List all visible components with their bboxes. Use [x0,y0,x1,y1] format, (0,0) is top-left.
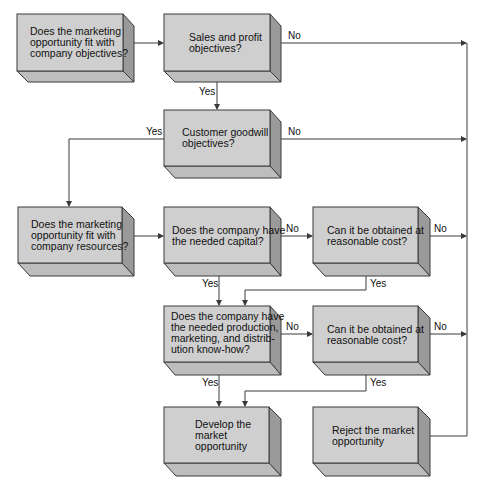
flowchart: No Yes Yes No No No Yes Yes No No Yes Ye… [0,0,479,491]
label-capital-no: No [286,223,299,234]
label-capital-cost-no: No [434,223,447,234]
node-text: reasonable cost? [327,235,407,247]
node-text: ution know-how? [171,343,250,355]
node-sales-profit: Sales and profit objectives? [164,14,281,82]
label-knowhow-cost-no: No [434,321,447,332]
label-knowhow-yes: Yes [202,377,218,388]
node-reject: Reject the market opportunity [313,407,430,476]
node-fit-objectives: Does the marketing opportunity fit with … [17,14,134,82]
node-text: opportunity [332,435,385,447]
label-sales-no: No [288,30,301,41]
node-develop: Develop the market opportunity [164,407,281,476]
node-fit-resources: Does the marketing opportunity fit with … [18,207,134,276]
node-text: reasonable cost? [327,334,407,346]
node-text: objectives? [189,42,242,54]
label-knowhow-no: No [286,321,299,332]
node-capital-reasonable-cost: Can it be obtained at reasonable cost? [313,207,430,276]
node-needed-capital: Does the company have the needed capital… [164,207,285,276]
node-text: objectives? [182,137,235,149]
node-text: company objectives? [30,47,128,59]
node-text: the needed capital? [172,235,264,247]
node-customer-goodwill: Customer goodwill objectives? [164,110,281,178]
node-text: company resources? [31,240,129,252]
node-needed-knowhow: Does the company have the needed product… [164,306,284,375]
label-goodwill-yes: Yes [146,126,162,137]
edge-goodwill-yes [69,139,164,206]
label-knowhow-cost-yes: Yes [370,377,386,388]
node-knowhow-reasonable-cost: Can it be obtained at reasonable cost? [313,306,430,375]
label-capital-cost-yes: Yes [370,278,386,289]
node-text: opportunity [195,440,248,452]
label-capital-yes: Yes [202,278,218,289]
label-sales-yes: Yes [199,86,215,97]
label-goodwill-no: No [288,126,301,137]
